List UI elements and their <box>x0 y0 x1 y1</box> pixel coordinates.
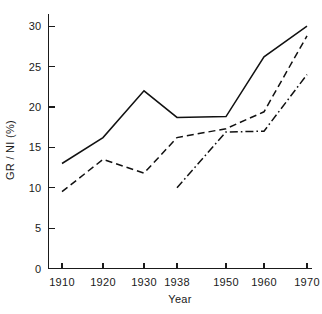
x-tick-label: 1930 <box>131 276 157 288</box>
x-tick-label: 1960 <box>251 276 277 288</box>
y-tick-label: 5 <box>35 222 41 234</box>
x-axis-ticks <box>62 263 307 269</box>
data-series-group <box>62 26 307 192</box>
y-axis-title: GR / NI (%) <box>4 120 16 180</box>
x-axis-title: Year <box>168 293 191 305</box>
x-tick-label: 1970 <box>294 276 320 288</box>
x-tick-label: 1950 <box>213 276 239 288</box>
y-tick-label: 30 <box>29 20 42 32</box>
axis-lines <box>49 14 313 269</box>
chart-plot-area: 051015202530 191019201930193819501960197… <box>0 0 322 314</box>
line-chart-figure: 051015202530 191019201930193819501960197… <box>0 0 322 314</box>
x-axis-tick-labels: 1910192019301938195019601970 <box>49 276 320 288</box>
x-tick-label: 1938 <box>164 276 190 288</box>
x-tick-label: 1910 <box>49 276 75 288</box>
y-tick-label: 0 <box>35 263 41 275</box>
series-line-dashed-series <box>62 36 307 192</box>
y-tick-label: 10 <box>29 182 42 194</box>
y-axis-tick-labels: 051015202530 <box>29 20 42 274</box>
y-tick-label: 20 <box>29 101 42 113</box>
y-tick-label: 25 <box>29 61 42 73</box>
series-line-solid-series <box>62 26 307 163</box>
x-tick-label: 1920 <box>90 276 116 288</box>
y-axis-ticks <box>49 26 55 268</box>
y-tick-label: 15 <box>29 141 42 153</box>
